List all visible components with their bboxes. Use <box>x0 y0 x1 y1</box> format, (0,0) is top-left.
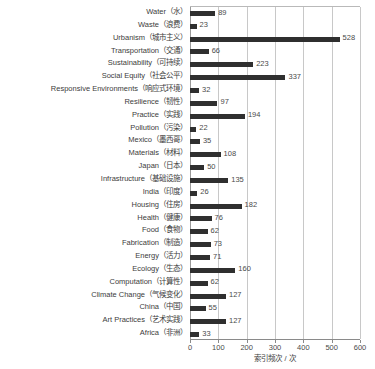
bar-rows: 8923528662233373297194223510850135261827… <box>190 7 360 339</box>
bar-value-label: 32 <box>202 84 210 97</box>
bar-row: 55 <box>190 302 360 315</box>
category-label: Practice（实践） <box>132 109 187 122</box>
bar <box>190 178 228 183</box>
bar-value-label: 97 <box>220 96 228 109</box>
x-tick-label-600: 600 <box>354 343 367 353</box>
bar-row: 160 <box>190 264 360 277</box>
bar-row: 66 <box>190 46 360 59</box>
bar-row: 22 <box>190 123 360 136</box>
category-label: Materials（材料） <box>129 147 187 160</box>
bar-row: 50 <box>190 161 360 174</box>
category-label: Urbanism（城市主义） <box>113 32 187 45</box>
category-label: Energy（活力） <box>135 250 187 263</box>
bar-row: 127 <box>190 290 360 303</box>
bar <box>190 319 226 324</box>
bar-value-label: 528 <box>343 32 356 45</box>
bar-value-label: 73 <box>214 238 222 251</box>
bar <box>190 49 209 54</box>
category-label: Japan（日本） <box>139 160 187 173</box>
bar-row: 89 <box>190 7 360 20</box>
bar-value-label: 66 <box>212 45 220 58</box>
bar-value-label: 127 <box>229 289 242 302</box>
plot-area: 8923528662233373297194223510850135261827… <box>190 6 360 340</box>
bar <box>190 75 285 80</box>
bar-row: 182 <box>190 200 360 213</box>
bar-chart: Water（水）Waste（浪费）Urbanism（城市主义）Transport… <box>0 0 375 369</box>
bar <box>190 255 210 260</box>
bar-value-label: 62 <box>211 225 219 238</box>
bar-value-label: 108 <box>224 148 237 161</box>
x-tick-label-0: 0 <box>188 343 192 353</box>
bar <box>190 229 208 234</box>
bar <box>190 191 197 196</box>
bar-row: 32 <box>190 84 360 97</box>
bar <box>190 152 221 157</box>
category-label: Climate Change（气候变化） <box>91 289 187 302</box>
bar <box>190 306 206 311</box>
bar <box>190 204 242 209</box>
category-label: Housing（住房） <box>131 199 187 212</box>
category-label: Health（健康） <box>137 212 187 225</box>
category-label: Africa（非洲） <box>140 327 187 340</box>
bar-value-label: 337 <box>288 71 301 84</box>
bar-value-label: 33 <box>202 328 210 341</box>
category-label: Social Equity（社会公平） <box>102 70 187 83</box>
category-label: China（中国） <box>139 301 187 314</box>
bar <box>190 242 211 247</box>
bar-value-label: 194 <box>248 109 261 122</box>
bar <box>190 127 196 132</box>
bar-row: 71 <box>190 251 360 264</box>
category-label: Pollution（污染） <box>130 122 187 135</box>
category-label: Sustainability（可持续） <box>108 57 187 70</box>
bar-value-label: 55 <box>209 302 217 315</box>
bar <box>190 62 253 67</box>
x-tick-label-100: 100 <box>212 343 225 353</box>
bar-value-label: 26 <box>200 186 208 199</box>
bar <box>190 165 204 170</box>
bar <box>190 281 208 286</box>
category-label: Computation（计算性） <box>109 276 187 289</box>
category-label: Mexico（墨西哥） <box>128 134 187 147</box>
category-label: Transportation（交通） <box>111 45 187 58</box>
bar <box>190 88 199 93</box>
bar <box>190 332 199 337</box>
category-label: Responsive Environments（响应式环境） <box>51 83 187 96</box>
category-label: Ecology（生态） <box>132 263 187 276</box>
category-label: Food（食物） <box>142 224 187 237</box>
bar-row: 223 <box>190 58 360 71</box>
bar-value-label: 182 <box>245 199 258 212</box>
x-axis-ticks: 0100200300400500600 <box>190 340 360 352</box>
category-label: Fabrication（制造） <box>122 237 187 250</box>
bar-value-label: 127 <box>229 315 242 328</box>
bar-row: 23 <box>190 20 360 33</box>
bar-value-label: 71 <box>213 251 221 264</box>
bar-row: 73 <box>190 238 360 251</box>
bar-row: 26 <box>190 187 360 200</box>
x-axis-title: 索引频次 / 次 <box>190 354 360 364</box>
x-tick-label-400: 400 <box>297 343 310 353</box>
bar-row: 62 <box>190 225 360 238</box>
bar-row: 108 <box>190 148 360 161</box>
bar-value-label: 160 <box>238 263 251 276</box>
bar-value-label: 89 <box>218 7 226 20</box>
category-label: India（印度） <box>143 186 187 199</box>
bar <box>190 24 197 29</box>
category-label: Infrastructure（基础设施） <box>101 173 187 186</box>
bar-row: 135 <box>190 174 360 187</box>
bar-row: 76 <box>190 213 360 226</box>
bar <box>190 139 200 144</box>
bar-value-label: 223 <box>256 58 269 71</box>
x-tick-label-200: 200 <box>240 343 253 353</box>
bar-row: 97 <box>190 97 360 110</box>
category-label: Water（水） <box>146 6 187 19</box>
bar-row: 35 <box>190 135 360 148</box>
bar <box>190 268 235 273</box>
gridline-600 <box>360 7 361 339</box>
bar-row: 337 <box>190 71 360 84</box>
x-tick-label-500: 500 <box>325 343 338 353</box>
category-axis-labels: Water（水）Waste（浪费）Urbanism（城市主义）Transport… <box>0 6 187 340</box>
bar <box>190 11 215 16</box>
bar-value-label: 23 <box>200 19 208 32</box>
bar <box>190 216 212 221</box>
bar <box>190 114 245 119</box>
